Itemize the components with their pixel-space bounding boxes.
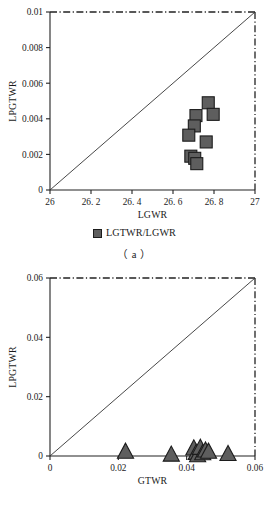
y-axis-title: LPGTWR [7,346,18,388]
y-tick-label: 0 [38,451,43,461]
data-point-triangle [163,446,179,461]
panel-caption-a: （ a ） [0,246,269,261]
y-tick-label: 0.004 [22,114,43,124]
x-tick-label: 0 [48,463,53,473]
scatter-plot-b: 00.020.040.0600.020.040.06GTWRLPGTWR [0,266,269,492]
x-tick-label: 0.06 [247,463,264,473]
y-tick-label: 0.002 [22,150,43,160]
y-tick-label: 0.06 [27,273,44,283]
y-tick-label: 0.02 [27,392,44,402]
chart-panel-b: 00.020.040.0600.020.040.06GTWRLPGTWR LGT… [0,266,269,532]
x-tick-label: 26. 6 [164,197,183,207]
x-tick-label: 26. 2 [82,197,101,207]
x-tick-label: 0.04 [179,463,196,473]
y-axis-title: LPGTWR [7,80,18,122]
x-tick-label: 0.02 [110,463,127,473]
data-point-square [202,97,214,109]
data-point-square [191,158,203,170]
scatter-plot-a: 2626. 226. 426. 626. 82700.0020.0040.006… [0,0,269,226]
x-tick-label: 26. 4 [123,197,142,207]
x-tick-label: 27 [250,197,260,207]
y-tick-label: 0 [38,185,43,195]
reference-diagonal-line [50,278,255,456]
data-point-square [200,136,212,148]
reference-diagonal-line [50,12,255,190]
data-series-LGTWR/LGWR [183,97,219,170]
square-marker-icon [93,229,102,238]
legend-a: LGTWR/LGWR [0,228,269,238]
data-series-LGTWR/GTWR [117,439,236,461]
data-point-triangle [117,443,133,458]
x-tick-label: 26 [45,197,55,207]
x-axis-title: GTWR [138,475,168,486]
data-point-square [183,129,195,141]
y-tick-label: 0.006 [22,79,43,89]
legend-label-a: LGTWR/LGWR [106,228,176,238]
chart-panel-a: 2626. 226. 426. 626. 82700.0020.0040.006… [0,0,269,266]
x-axis-title: LGWR [138,209,168,220]
y-tick-label: 0.01 [27,7,44,17]
data-point-square [207,108,219,120]
data-point-triangle [220,445,236,460]
figure-container: 2626. 226. 426. 626. 82700.0020.0040.006… [0,0,269,532]
y-tick-label: 0.008 [22,43,43,53]
y-tick-label: 0.04 [27,333,44,343]
x-tick-label: 26. 8 [205,197,224,207]
